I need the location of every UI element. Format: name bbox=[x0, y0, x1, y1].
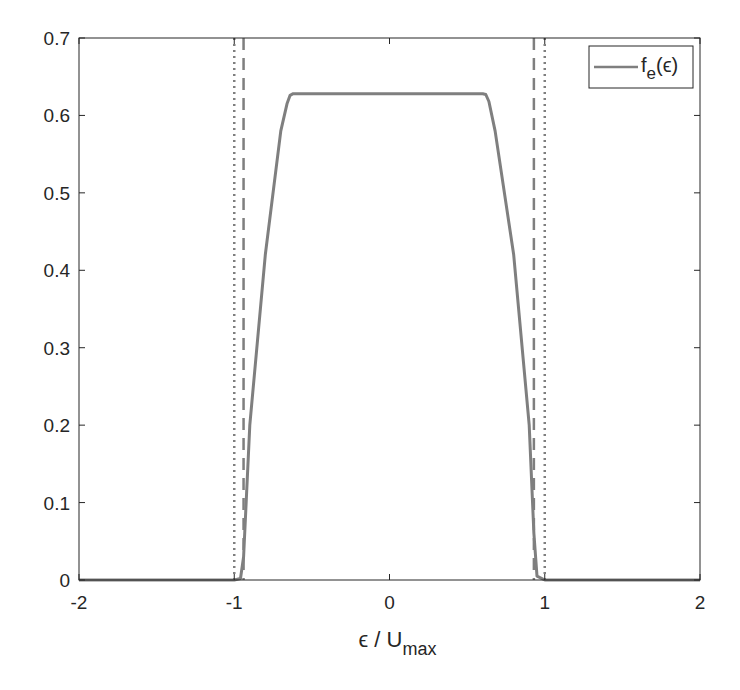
legend: fe(ϵ) bbox=[589, 46, 693, 88]
x-tick-label: 2 bbox=[695, 592, 706, 613]
y-tick-label: 0.5 bbox=[44, 183, 70, 204]
axes-box bbox=[79, 38, 700, 580]
y-tick-label: 0.1 bbox=[44, 493, 70, 514]
x-tick-label: -1 bbox=[226, 592, 243, 613]
y-axis-ticks: 00.10.20.30.40.50.60.7 bbox=[44, 28, 700, 591]
series-lines bbox=[79, 94, 700, 580]
reference-lines bbox=[234, 38, 545, 580]
x-axis-ticks: -2-1012 bbox=[71, 38, 706, 613]
series-line-0 bbox=[79, 94, 700, 580]
y-tick-label: 0 bbox=[59, 570, 70, 591]
x-tick-label: -2 bbox=[71, 592, 88, 613]
y-tick-label: 0.7 bbox=[44, 28, 70, 49]
y-tick-label: 0.6 bbox=[44, 105, 70, 126]
x-tick-label: 0 bbox=[384, 592, 395, 613]
x-tick-label: 1 bbox=[539, 592, 550, 613]
chart: -2-1012 00.10.20.30.40.50.60.7 ϵ / Umax … bbox=[0, 0, 740, 690]
y-tick-label: 0.2 bbox=[44, 415, 70, 436]
y-tick-label: 0.4 bbox=[44, 260, 71, 281]
x-axis-label: ϵ / Umax bbox=[359, 627, 437, 659]
y-tick-label: 0.3 bbox=[44, 338, 70, 359]
